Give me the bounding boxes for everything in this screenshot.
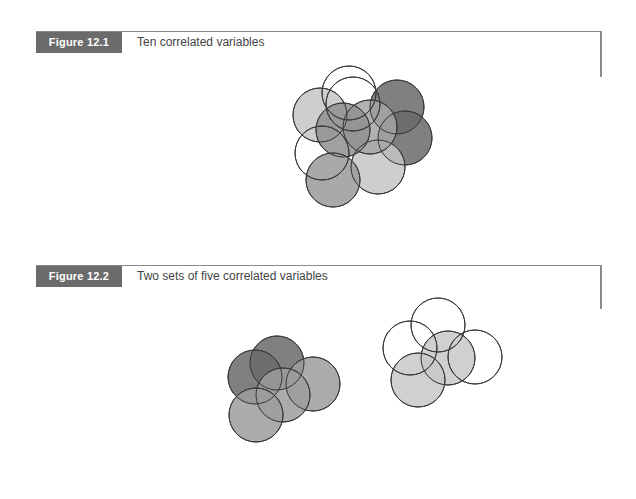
correlation-venn-diagrams	[0, 0, 636, 499]
figure-2-circles	[228, 298, 502, 442]
figure-1-circles	[293, 66, 432, 207]
